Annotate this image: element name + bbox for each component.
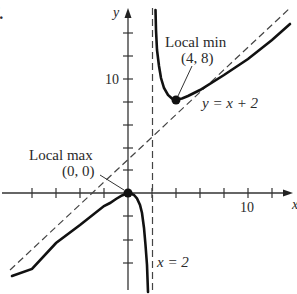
local-min-coords: (4, 8) — [181, 50, 214, 67]
local-max-title: Local max — [29, 147, 93, 163]
local-min-leader-line — [178, 66, 192, 96]
local-min-point — [172, 96, 181, 105]
x-axis: 10 x — [2, 188, 297, 215]
curve-right-branch — [156, 10, 291, 100]
local-max-leader-line — [100, 175, 124, 190]
oblique-asymptote-label: y = x + 2 — [200, 95, 259, 111]
local-max-coords: (0, 0) — [62, 163, 95, 180]
function-graph: f. 10 x — [0, 0, 297, 294]
x-tick-label-10: 10 — [240, 200, 254, 215]
vertical-asymptote-label: x = 2 — [156, 254, 189, 270]
local-max-point — [124, 189, 133, 198]
y-axis: 10 y — [105, 5, 133, 290]
y-tick-label-10: 10 — [105, 72, 119, 87]
x-axis-label: x — [291, 197, 297, 212]
panel-label: f. — [0, 5, 3, 22]
oblique-asymptote-line — [10, 8, 290, 270]
y-axis-label: y — [111, 5, 120, 20]
local-min-title: Local min — [165, 34, 227, 50]
y-axis-arrow-icon — [125, 8, 132, 18]
x-axis-arrow-icon — [283, 190, 293, 197]
